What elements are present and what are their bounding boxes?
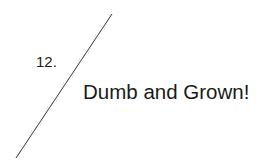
item-title: Dumb and Grown! [83,79,249,105]
item-number: 12. [36,52,57,72]
